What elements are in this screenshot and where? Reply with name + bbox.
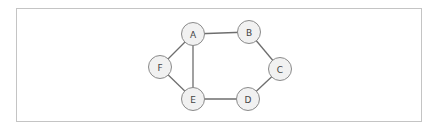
node-b: B [238, 21, 261, 44]
node-c: C [269, 58, 292, 81]
node-a: A [182, 23, 205, 46]
node-b-label: B [246, 28, 252, 38]
node-f-label: F [157, 63, 162, 73]
edges-layer [160, 32, 280, 99]
node-c-label: C [277, 65, 283, 75]
node-d-label: D [245, 95, 252, 105]
node-f: F [149, 56, 172, 79]
graph-canvas: A B C D E F [0, 0, 441, 131]
node-a-label: A [190, 30, 197, 40]
node-e: E [182, 88, 205, 111]
node-d: D [237, 88, 260, 111]
nodes-layer: A B C D E F [149, 21, 292, 111]
node-e-label: E [190, 95, 196, 105]
